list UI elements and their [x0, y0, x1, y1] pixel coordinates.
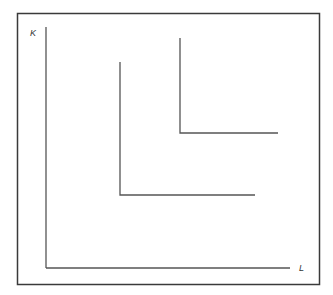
frame-border — [18, 14, 320, 285]
isoquant-lower — [120, 62, 255, 195]
y-axis-label: K — [30, 28, 37, 38]
isoquant-upper — [180, 38, 278, 133]
x-axis-label: L — [299, 263, 304, 273]
isoquant-diagram: K L — [0, 0, 333, 295]
